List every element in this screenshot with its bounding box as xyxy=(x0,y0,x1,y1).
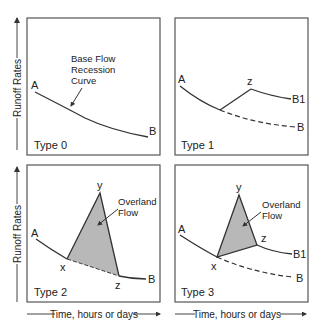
point-y: y xyxy=(236,181,242,193)
annotation-line-2: Flow xyxy=(262,210,282,221)
point-B: B xyxy=(296,272,303,284)
panel-label: Type 2 xyxy=(34,286,67,298)
panel-type-0: A B Base Flow Recession Curve Type 0 xyxy=(27,18,160,155)
runoff-hydrograph-types-diagram: Runoff Rates Runoff Rates Time, hours or… xyxy=(0,0,322,332)
y-axis-top: Runoff Rates xyxy=(10,18,24,150)
y-axis-bottom: Runoff Rates xyxy=(10,167,24,302)
point-A: A xyxy=(31,79,39,91)
point-A: A xyxy=(178,73,186,85)
panel-label: Type 1 xyxy=(181,139,214,151)
y-axis-label-bottom: Runoff Rates xyxy=(12,205,23,263)
annotation-line-1: Overland xyxy=(262,199,301,210)
point-y: y xyxy=(97,179,103,191)
point-B1: B1 xyxy=(292,93,305,105)
point-B: B xyxy=(148,273,155,285)
annotation-line-2: Flow xyxy=(118,207,138,218)
annotation-line-1: Base Flow xyxy=(71,53,115,64)
point-A: A xyxy=(178,223,186,235)
point-x: x xyxy=(60,261,66,273)
annotation-line-3: Curve xyxy=(71,75,96,86)
annotation-line-2: Recession xyxy=(71,64,115,75)
panel-label: Type 0 xyxy=(34,139,67,151)
point-B: B xyxy=(149,125,156,137)
point-B1: B1 xyxy=(293,248,306,260)
point-z: z xyxy=(115,279,121,291)
point-z: z xyxy=(261,232,267,244)
x-axis-right: Time, hours or days xyxy=(175,309,306,320)
x-axis-label-right: Time, hours or days xyxy=(193,309,281,320)
y-axis-label-top: Runoff Rates xyxy=(12,59,23,117)
annotation-line-1: Overland xyxy=(118,196,157,207)
point-B: B xyxy=(297,121,304,133)
point-z: z xyxy=(247,75,253,87)
point-A: A xyxy=(31,227,39,239)
panel-type-2: A y x z B Overland Flow Type 2 xyxy=(27,165,160,302)
panel-type-3: A y z B1 x B Overland Flow Type 3 xyxy=(175,165,308,302)
x-axis-left: Time, hours or days xyxy=(27,309,160,320)
panel-label: Type 3 xyxy=(181,286,214,298)
panel-type-1: A z B1 B Type 1 xyxy=(175,18,308,155)
point-x: x xyxy=(211,260,217,272)
x-axis-label-left: Time, hours or days xyxy=(50,309,138,320)
